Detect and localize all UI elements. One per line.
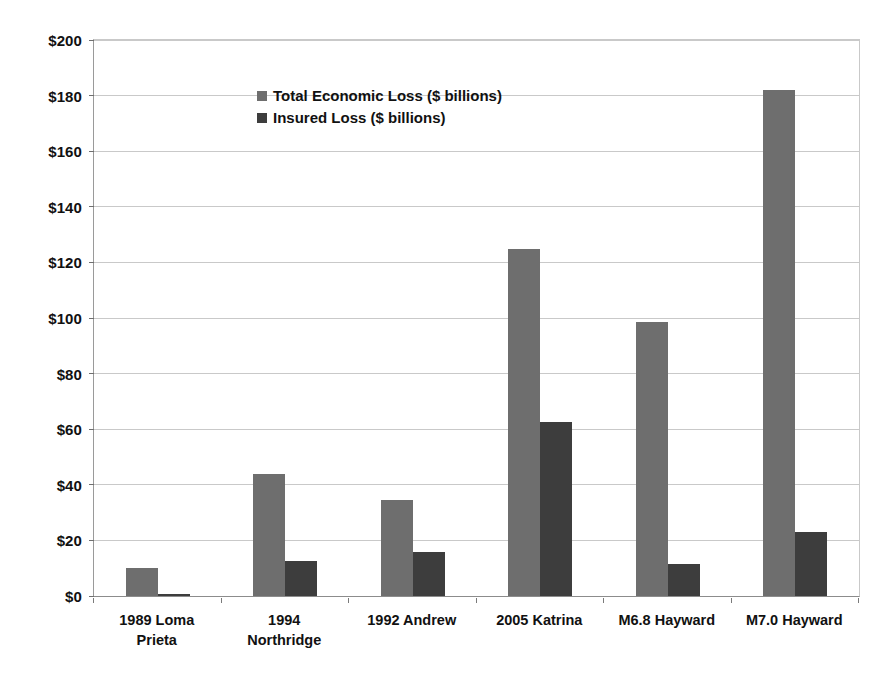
x-axis-tick: [476, 598, 477, 603]
x-axis-label: M7.0 Hayward: [731, 611, 859, 631]
y-axis-label: $120: [48, 254, 82, 271]
y-axis-label: $20: [57, 532, 82, 549]
x-axis-label: M6.8 Hayward: [603, 611, 731, 631]
bar-total: [763, 90, 795, 596]
y-axis-label: $140: [48, 198, 82, 215]
x-axis-tick: [348, 598, 349, 603]
x-axis-tick: [858, 598, 859, 603]
x-axis-tick: [221, 598, 222, 603]
legend-label-insured: Insured Loss ($ billions): [273, 109, 446, 126]
x-axis: 1989 Loma Prieta1994 Northridge1992 Andr…: [93, 598, 860, 678]
y-axis-label: $200: [48, 32, 82, 49]
bar-total: [253, 474, 285, 596]
y-axis-label: $40: [57, 476, 82, 493]
y-axis-label: $60: [57, 421, 82, 438]
legend-label-total: Total Economic Loss ($ billions): [273, 87, 502, 104]
legend-item-insured-loss: Insured Loss ($ billions): [257, 109, 502, 126]
bar-insured: [540, 422, 572, 596]
x-axis-tick: [603, 598, 604, 603]
y-axis-label: $160: [48, 143, 82, 160]
y-axis-label: $0: [65, 588, 82, 605]
legend: Total Economic Loss ($ billions) Insured…: [257, 87, 502, 126]
x-axis-tick: [93, 598, 94, 603]
bar-insured: [413, 552, 445, 596]
y-axis-label: $100: [48, 310, 82, 327]
x-axis-label: 1989 Loma Prieta: [93, 611, 221, 650]
y-axis-label: $180: [48, 87, 82, 104]
x-axis-tick: [731, 598, 732, 603]
x-axis-label: 2005 Katrina: [476, 611, 604, 631]
bar-insured: [668, 564, 700, 596]
bar-insured: [795, 532, 827, 596]
bar-chart: $0$20$40$60$80$100$120$140$160$180$200 T…: [0, 0, 895, 684]
bar-total: [508, 249, 540, 597]
bar-total: [381, 500, 413, 596]
bar-insured: [158, 594, 190, 596]
bar-insured: [285, 561, 317, 596]
legend-swatch-icon-insured: [257, 113, 267, 123]
bar-total: [636, 322, 668, 596]
bar-total: [126, 568, 158, 596]
y-axis-label: $80: [57, 365, 82, 382]
legend-swatch-icon-total: [257, 91, 267, 101]
legend-item-total-economic-loss: Total Economic Loss ($ billions): [257, 87, 502, 104]
x-axis-label: 1994 Northridge: [221, 611, 349, 650]
plot-area: $0$20$40$60$80$100$120$140$160$180$200 T…: [93, 39, 860, 597]
x-axis-label: 1992 Andrew: [348, 611, 476, 631]
